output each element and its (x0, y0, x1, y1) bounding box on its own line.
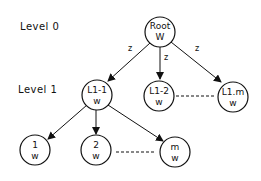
node-l1-2: L1-2 w (144, 81, 174, 111)
node-root-label: Root (150, 21, 171, 31)
node-l1-m-weight: w (229, 98, 236, 108)
edge-label-z-middle: z (164, 53, 168, 62)
node-cm: m w (160, 137, 190, 167)
node-root: Root W (145, 17, 175, 47)
node-l1-m-label: L1.m (222, 87, 244, 97)
edge-l1-1-c1 (48, 105, 87, 139)
node-l1-2-weight: w (155, 97, 162, 107)
node-c2-weight: w (92, 151, 99, 161)
node-c2: 2 w (81, 135, 111, 165)
node-c1-label: 1 (32, 140, 38, 150)
node-l1-1-label: L1-1 (87, 85, 107, 95)
node-cm-weight: w (171, 153, 178, 163)
node-l1-1: L1-1 w (82, 80, 112, 110)
level-0-label: Level 0 (20, 21, 59, 32)
node-l1-m: L1.m w (218, 82, 248, 112)
node-root-weight: W (156, 32, 165, 42)
tree-diagram: Level 0 Level 1 z z z Root W L1-1 w L1-2… (0, 0, 261, 181)
edge-label-z-right: z (195, 44, 199, 53)
node-c1: 1 w (20, 135, 50, 165)
node-c2-label: 2 (93, 140, 99, 150)
node-cm-label: m (171, 142, 180, 152)
level-1-label: Level 1 (18, 84, 57, 95)
node-l1-2-label: L1-2 (149, 86, 169, 96)
edge-label-z-left: z (128, 44, 132, 53)
node-l1-1-weight: w (93, 96, 100, 106)
node-c1-weight: w (31, 151, 38, 161)
